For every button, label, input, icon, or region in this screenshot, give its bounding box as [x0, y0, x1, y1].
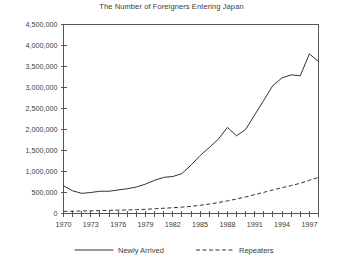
y-tick-label: 1,500,000	[26, 146, 58, 155]
legend-label-newly-arrived: Newly Arrived	[118, 246, 164, 255]
y-tick-label: 500,000	[32, 188, 58, 197]
x-tick-label: 1985	[192, 220, 208, 229]
x-tick-label: 1988	[219, 220, 235, 229]
y-tick-label: 3,500,000	[26, 62, 58, 71]
x-tick-label: 1994	[274, 220, 290, 229]
y-tick-label: 4,500,000	[26, 20, 58, 29]
plot-frame	[64, 25, 319, 214]
y-tick-label: 3,000,000	[26, 83, 58, 92]
legend-label-repeaters: Repeaters	[239, 246, 274, 255]
series-group	[64, 54, 319, 212]
chart-figure: The Number of Foreigners Entering Japan …	[0, 0, 343, 263]
y-axis-tick-group: 0500,0001,000,0001,500,0002,000,0002,500…	[26, 20, 67, 218]
y-tick-label: 2,000,000	[26, 125, 58, 134]
y-tick-label: 0	[54, 209, 58, 218]
series-line-repeaters	[64, 177, 319, 211]
chart-legend: Newly ArrivedRepeaters	[75, 246, 274, 255]
x-tick-label: 1973	[83, 220, 99, 229]
x-tick-label: 1997	[301, 220, 317, 229]
series-line-newly-arrived	[64, 54, 319, 193]
x-tick-label: 1979	[137, 220, 153, 229]
y-tick-label: 4,000,000	[26, 41, 58, 50]
chart-plot-area: 0500,0001,000,0001,500,0002,000,0002,500…	[0, 0, 343, 263]
x-tick-label: 1982	[165, 220, 181, 229]
x-tick-label: 1970	[56, 220, 72, 229]
y-tick-label: 1,000,000	[26, 167, 58, 176]
x-tick-label: 1991	[247, 220, 263, 229]
y-tick-label: 2,500,000	[26, 104, 58, 113]
x-tick-label: 1976	[110, 220, 126, 229]
